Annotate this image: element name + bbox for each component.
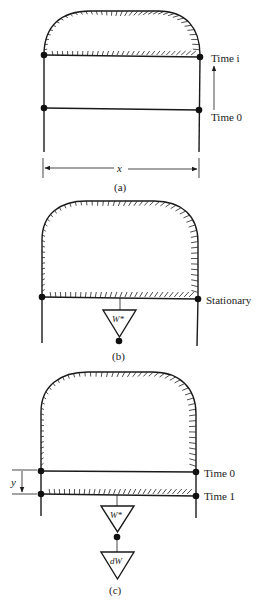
contact-dot <box>195 296 202 303</box>
contact-dot <box>39 294 46 301</box>
bubble-dome-b <box>42 201 198 298</box>
contact-dot <box>41 52 48 59</box>
label-time-i: Time i <box>211 52 240 64</box>
hatching-c <box>41 372 196 494</box>
weight-dot <box>114 534 121 541</box>
film-line-time-0 <box>44 108 199 110</box>
panel-a: Time i Time 0 x (a) <box>41 11 243 194</box>
panel-c: Time 0 Time 1 y W* dW (c) <box>10 372 236 597</box>
label-stationary: Stationary <box>206 294 252 306</box>
contact-dot <box>197 54 204 61</box>
right-wall-a <box>199 57 200 152</box>
caption-c: (c) <box>109 584 122 597</box>
contact-dot <box>196 107 203 114</box>
contact-dot <box>193 493 200 500</box>
label-width-x: x <box>116 162 122 174</box>
contact-dot <box>41 105 48 112</box>
label-time-1-c: Time 1 <box>204 490 235 502</box>
label-time-0: Time 0 <box>211 111 243 123</box>
hatching-a <box>44 11 200 55</box>
figure-canvas: Time i Time 0 x (a) Stationary W* (b) <box>0 0 259 609</box>
contact-dot <box>38 491 45 498</box>
label-displacement-y: y <box>10 476 16 488</box>
film-line-time-0-c <box>41 471 196 472</box>
panel-b: Stationary W* (b) <box>39 201 252 363</box>
bubble-dome-c <box>41 372 196 496</box>
contact-dot <box>38 468 45 475</box>
label-added-weight-dw: dW <box>110 556 124 566</box>
hatching-b <box>42 201 198 297</box>
film-line-time-i <box>44 55 200 57</box>
contact-dot <box>193 469 200 476</box>
weight-dot <box>116 338 123 345</box>
label-weight-w-star-c: W* <box>110 510 122 520</box>
film-line-time-1-c <box>41 494 196 496</box>
caption-b: (b) <box>112 350 125 363</box>
caption-a: (a) <box>114 181 127 194</box>
right-wall-b <box>197 299 198 346</box>
label-weight-w-star: W* <box>112 314 124 324</box>
label-time-0-c: Time 0 <box>204 467 236 479</box>
